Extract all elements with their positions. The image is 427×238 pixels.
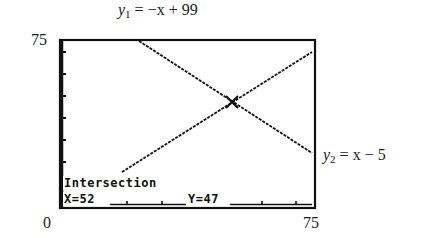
- x-readout: X=52: [64, 192, 95, 206]
- intersection-title: Intersection: [64, 176, 157, 190]
- calculator-graph-screen: Intersection X=52 Y=47: [0, 0, 427, 238]
- y-readout: Y=47: [188, 192, 219, 206]
